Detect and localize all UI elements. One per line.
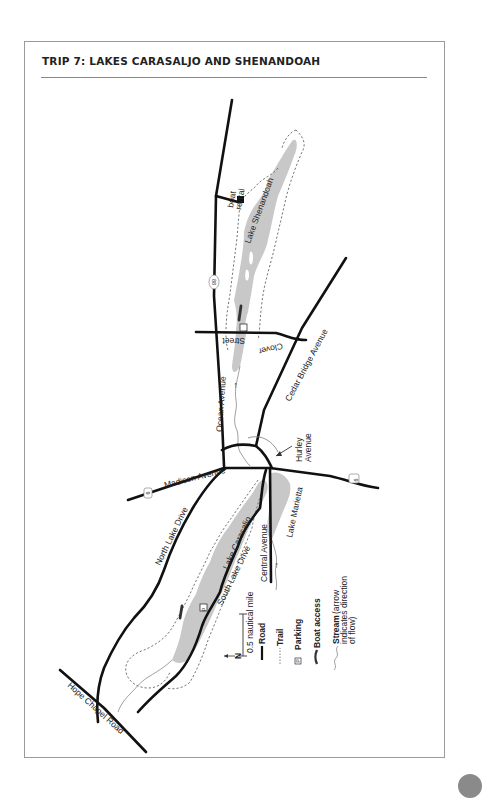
boat-access-icon xyxy=(239,306,241,320)
legend-parking-label: Parking xyxy=(293,619,303,650)
hope-chapel-road-label: Hope Chapel Road xyxy=(66,680,127,736)
svg-text:9: 9 xyxy=(145,491,151,494)
legend-stream-symbol xyxy=(334,646,338,670)
stream-arrow-icon: → xyxy=(229,382,239,391)
svg-text:P: P xyxy=(295,659,301,663)
svg-text:88: 88 xyxy=(211,279,217,285)
hurley-arrowhead-icon xyxy=(276,451,282,456)
hurley-connector-road xyxy=(222,445,272,468)
stream-shenandoah-outlet xyxy=(235,366,250,466)
street-label: Street xyxy=(222,336,245,346)
svg-text:P: P xyxy=(201,607,207,611)
svg-text:9: 9 xyxy=(353,478,359,481)
svg-text:P: P xyxy=(243,329,247,335)
parking-icon: P xyxy=(200,604,207,611)
legend-boat-access-symbol xyxy=(316,650,318,664)
madison-avenue-label: Madison Avenue xyxy=(163,465,227,490)
scale-label: 0.5 nautical mile xyxy=(245,591,255,653)
clover-label: Clover xyxy=(258,341,284,357)
hurley-avenue-label: Avenue xyxy=(303,433,313,462)
legend-parking-symbol: P xyxy=(295,658,301,664)
ocean-avenue-label: Ocean Avenue xyxy=(214,376,228,432)
boat-access-icon xyxy=(180,606,182,618)
clover-street-road xyxy=(196,332,306,340)
central-avenue-road xyxy=(270,468,271,582)
central-avenue-label: Central Avenue xyxy=(259,524,269,582)
route-88-shield: 88 xyxy=(209,275,219,289)
legend-boat-access-label: Boat access xyxy=(312,598,322,648)
route-9-shield-west: 9 xyxy=(144,488,152,498)
legend-road-label: Road xyxy=(257,623,267,644)
legend-stream-note-3: of flow) xyxy=(347,616,357,644)
boat-rental-label-line2: rental xyxy=(233,188,247,211)
legend-trail-label: Trail xyxy=(275,629,285,646)
north-lake-drive-label: North Lake Drive xyxy=(153,505,190,567)
route-9-shield-east: 9 xyxy=(349,474,359,483)
legend: 0.5 nautical mile Road Trail P Parking B… xyxy=(239,576,357,670)
